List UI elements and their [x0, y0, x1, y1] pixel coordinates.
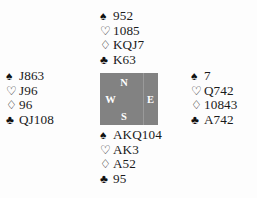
hand-north-spades: 952: [113, 9, 133, 24]
hand-south-heart-row: ♡ AK3: [100, 143, 162, 158]
hand-west-heart-row: ♡ J96: [6, 84, 54, 99]
hand-west: ♠ J863 ♡ J96 ♢ 96 ♣ QJ108: [6, 69, 54, 127]
hand-south: ♠ AKQ104 ♡ AK3 ♢ A52 ♣ 95: [100, 128, 162, 186]
diamond-icon: ♢: [191, 98, 204, 113]
heart-icon: ♡: [6, 84, 19, 99]
heart-icon: ♡: [191, 84, 204, 99]
hand-south-spade-row: ♠ AKQ104: [100, 128, 162, 143]
hand-south-diamond-row: ♢ A52: [100, 157, 162, 172]
hand-east-clubs: A742: [204, 113, 234, 128]
heart-icon: ♡: [100, 143, 113, 158]
club-icon: ♣: [6, 113, 19, 128]
hand-north-spade-row: ♠ 952: [100, 9, 144, 24]
hand-east-spade-row: ♠ 7: [191, 69, 237, 84]
heart-icon: ♡: [100, 24, 113, 39]
compass-box: N W E S: [100, 73, 158, 125]
diamond-icon: ♢: [100, 38, 113, 53]
hand-west-diamonds: 96: [19, 98, 32, 113]
hand-west-spade-row: ♠ J863: [6, 69, 54, 84]
hand-south-clubs: 95: [113, 172, 126, 187]
compass-divider: [143, 73, 144, 125]
hand-east-spades: 7: [204, 69, 211, 84]
hand-north-hearts: 1085: [113, 24, 140, 39]
hand-east-club-row: ♣ A742: [191, 113, 237, 128]
hand-west-spades: J863: [19, 69, 44, 84]
hand-east-diamond-row: ♢ 10843: [191, 98, 237, 113]
diamond-icon: ♢: [100, 157, 113, 172]
hand-north-club-row: ♣ K63: [100, 53, 144, 68]
hand-south-diamonds: A52: [113, 157, 136, 172]
hand-west-hearts: J96: [19, 84, 38, 99]
hand-east-hearts: Q742: [204, 84, 234, 99]
diamond-icon: ♢: [6, 98, 19, 113]
hand-east-heart-row: ♡ Q742: [191, 84, 237, 99]
bridge-deal-diagram: ♠ 952 ♡ 1085 ♢ KQJ7 ♣ K63 ♠ J863 ♡ J96 ♢…: [0, 0, 257, 198]
compass-label-north: N: [118, 77, 130, 88]
club-icon: ♣: [191, 113, 204, 128]
spade-icon: ♠: [6, 69, 19, 84]
hand-north-diamond-row: ♢ KQJ7: [100, 38, 144, 53]
hand-west-club-row: ♣ QJ108: [6, 113, 54, 128]
compass-label-east: E: [145, 94, 156, 105]
hand-south-hearts: AK3: [113, 143, 139, 158]
hand-east: ♠ 7 ♡ Q742 ♢ 10843 ♣ A742: [191, 69, 237, 127]
hand-east-diamonds: 10843: [204, 98, 237, 113]
compass-label-south: S: [118, 111, 130, 122]
spade-icon: ♠: [100, 128, 113, 143]
hand-north-heart-row: ♡ 1085: [100, 24, 144, 39]
spade-icon: ♠: [100, 9, 113, 24]
club-icon: ♣: [100, 172, 113, 187]
club-icon: ♣: [100, 53, 113, 68]
hand-south-club-row: ♣ 95: [100, 172, 162, 187]
compass-label-west: W: [104, 94, 117, 105]
spade-icon: ♠: [191, 69, 204, 84]
hand-south-spades: AKQ104: [113, 128, 162, 143]
hand-north-clubs: K63: [113, 53, 136, 68]
hand-west-clubs: QJ108: [19, 113, 54, 128]
hand-north: ♠ 952 ♡ 1085 ♢ KQJ7 ♣ K63: [100, 9, 144, 67]
hand-north-diamonds: KQJ7: [113, 38, 144, 53]
hand-west-diamond-row: ♢ 96: [6, 98, 54, 113]
